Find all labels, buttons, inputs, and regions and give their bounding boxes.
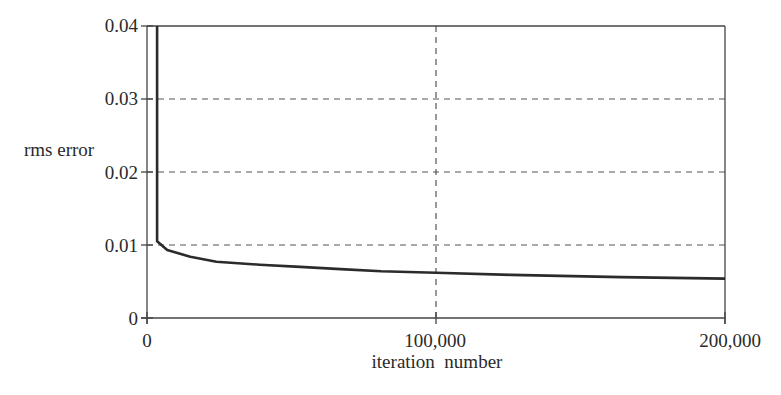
x-tick-label-200000: 200,000 bbox=[670, 331, 781, 350]
y-tick-label-0: 0 bbox=[78, 309, 138, 328]
y-tick-label-0.04: 0.04 bbox=[78, 16, 138, 35]
plot-area bbox=[141, 26, 725, 324]
y-axis-label: rms error bbox=[24, 140, 94, 159]
y-tick-label-0.03: 0.03 bbox=[78, 89, 138, 108]
data-line-rms-error bbox=[157, 26, 725, 279]
x-tick-label-100000: 100,000 bbox=[375, 331, 495, 350]
y-tick-label-0.02: 0.02 bbox=[78, 163, 138, 182]
x-tick-label-0: 0 bbox=[87, 331, 207, 350]
y-tick-label-0.01: 0.01 bbox=[78, 236, 138, 255]
x-axis-label: iteration number bbox=[352, 352, 522, 371]
